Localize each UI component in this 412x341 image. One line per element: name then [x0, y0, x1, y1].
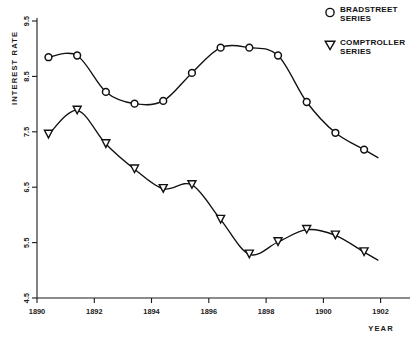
chart-legend: BRADSTREET SERIES COMPTROLLER SERIES	[325, 5, 405, 56]
data-point-circle	[74, 52, 81, 59]
legend-label-comptroller-line2: SERIES	[340, 47, 372, 56]
x-tick-label-1892: 1892	[86, 307, 102, 316]
data-point-triangle	[274, 238, 282, 246]
legend-entry-comptroller: COMPTROLLER SERIES	[325, 38, 405, 56]
x-tick-label-1898: 1898	[258, 307, 274, 316]
y-axis-ticks	[32, 21, 37, 298]
data-point-circle	[303, 99, 310, 106]
y-tick-label-5-5: 5.5	[22, 237, 31, 248]
y-tick-label-8-5: 8.5	[22, 71, 31, 82]
legend-label-comptroller-line1: COMPTROLLER	[340, 38, 405, 47]
data-point-circle	[246, 44, 253, 51]
y-tick-label-6-5: 6.5	[22, 182, 31, 193]
series-line-bradstreet	[48, 45, 377, 157]
data-point-circle	[160, 97, 167, 104]
legend-label-bradstreet-line1: BRADSTREET	[340, 5, 398, 14]
x-tick-label-1894: 1894	[143, 307, 160, 316]
data-point-circle	[361, 146, 368, 153]
data-point-circle	[131, 100, 138, 107]
data-point-triangle	[44, 130, 52, 138]
x-axis-ticks	[37, 298, 381, 303]
x-axis-tick-labels: 1890 1892 1894 1896 1898 1900 1902	[29, 307, 389, 316]
data-point-circle	[332, 129, 339, 136]
y-tick-label-4-5: 4.5	[22, 293, 31, 304]
data-point-circle	[275, 52, 282, 59]
data-point-circle	[189, 69, 196, 76]
legend-label-bradstreet-line2: SERIES	[340, 14, 372, 23]
x-tick-label-1896: 1896	[201, 307, 217, 316]
interest-rate-line-chart: INTEREST RATE 9.5 8.5 7.5 6.5 5.5 4.5	[0, 0, 412, 341]
data-point-triangle	[245, 250, 253, 258]
chart-page: INTEREST RATE 9.5 8.5 7.5 6.5 5.5 4.5	[0, 0, 412, 341]
series-line-comptroller	[48, 110, 377, 260]
data-point-circle	[45, 54, 52, 61]
y-axis-tick-labels: 9.5 8.5 7.5 6.5 5.5 4.5	[22, 16, 31, 304]
legend-entry-bradstreet: BRADSTREET SERIES	[326, 5, 398, 23]
y-tick-label-7-5: 7.5	[22, 127, 31, 138]
data-point-circle	[217, 44, 224, 51]
x-tick-label-1902: 1902	[372, 307, 388, 316]
circle-marker-icon	[326, 8, 334, 16]
x-axis-title: YEAR	[368, 324, 394, 333]
triangle-down-marker-icon	[325, 41, 335, 49]
x-tick-label-1890: 1890	[29, 307, 45, 316]
data-point-triangle	[217, 215, 225, 223]
series-markers-comptroller	[44, 106, 368, 258]
data-point-circle	[102, 89, 109, 96]
y-axis-title: INTEREST RATE	[10, 31, 19, 105]
x-tick-label-1900: 1900	[315, 307, 331, 316]
y-tick-label-9-5: 9.5	[22, 16, 31, 27]
series-markers-bradstreet	[45, 44, 367, 153]
